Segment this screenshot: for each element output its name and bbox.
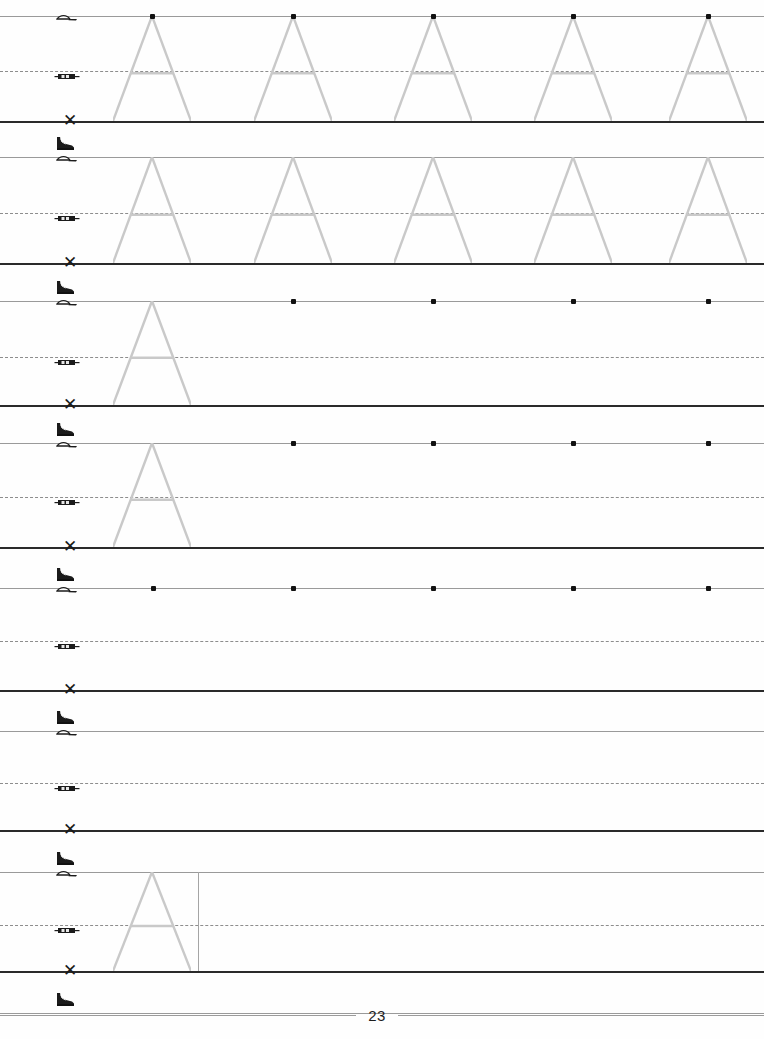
cap-icon [54, 579, 78, 591]
stroke-start-dot [431, 14, 436, 19]
stroke-start-dot [431, 441, 436, 446]
letter-a-trace [394, 157, 472, 263]
x-mark-icon: ✕ [62, 682, 78, 698]
car-icon [54, 209, 80, 218]
row-baseline [0, 547, 764, 549]
row-baseline [0, 263, 764, 265]
stroke-start-dot [291, 586, 296, 591]
car-icon [54, 353, 80, 362]
x-mark-icon: ✕ [62, 113, 78, 129]
stroke-start-dot [571, 441, 576, 446]
car-icon [54, 779, 80, 788]
row-top-guideline [0, 731, 764, 732]
row-top-guideline [0, 588, 764, 589]
page-footer: 23 [0, 1004, 764, 1026]
cap-icon [54, 292, 78, 304]
stroke-start-dot [291, 14, 296, 19]
footer-rule-left-ext [160, 1015, 356, 1016]
letter-a-trace [669, 157, 747, 263]
footer-rule-right [398, 1015, 594, 1016]
cap-icon [54, 434, 78, 446]
stroke-start-dot [291, 299, 296, 304]
stroke-start-dot [706, 14, 711, 19]
cap-icon [54, 863, 78, 875]
x-mark-icon: ✕ [62, 539, 78, 555]
x-mark-icon: ✕ [62, 255, 78, 271]
car-icon [54, 637, 80, 646]
stroke-start-dot [706, 586, 711, 591]
stroke-start-dot [571, 586, 576, 591]
car-icon [54, 921, 80, 930]
cap-icon [54, 722, 78, 734]
car-icon [54, 493, 80, 502]
footer-rule-right-ext [594, 1015, 764, 1016]
letter-a-trace [113, 157, 191, 263]
letter-a-trace [254, 157, 332, 263]
letter-a-trace [669, 16, 747, 121]
stroke-start-dot [151, 586, 156, 591]
row-mid-dashed-guideline [0, 641, 764, 642]
stroke-start-dot [571, 14, 576, 19]
stroke-start-dot [150, 14, 155, 19]
stroke-start-dot [431, 586, 436, 591]
row-baseline [0, 405, 764, 407]
letter-a-trace [113, 301, 191, 405]
car-icon [54, 67, 80, 76]
x-mark-icon: ✕ [62, 822, 78, 838]
letter-a-trace [113, 872, 191, 971]
cap-icon [54, 7, 78, 19]
letter-a-trace [254, 16, 332, 121]
stroke-start-dot [706, 441, 711, 446]
letter-a-trace [113, 443, 191, 547]
stroke-start-dot [571, 299, 576, 304]
x-mark-icon: ✕ [62, 963, 78, 979]
stroke-start-dot [431, 299, 436, 304]
page-number: 23 [356, 1007, 398, 1024]
stroke-start-dot [291, 441, 296, 446]
row-mid-dashed-guideline [0, 783, 764, 784]
row-baseline [0, 830, 764, 832]
row-baseline [0, 121, 764, 123]
row-baseline [0, 971, 764, 973]
row-baseline [0, 690, 764, 692]
worksheet-page: ✕✕✕✕✕✕✕ 23 [0, 0, 764, 1039]
letter-a-trace [394, 16, 472, 121]
letter-a-trace [534, 16, 612, 121]
x-mark-icon: ✕ [62, 397, 78, 413]
letter-group-divider [198, 872, 199, 971]
stroke-start-dot [706, 299, 711, 304]
footer-rule-left [0, 1015, 160, 1016]
letter-a-trace [534, 157, 612, 263]
letter-a-trace [113, 16, 191, 121]
cap-icon [54, 148, 78, 160]
